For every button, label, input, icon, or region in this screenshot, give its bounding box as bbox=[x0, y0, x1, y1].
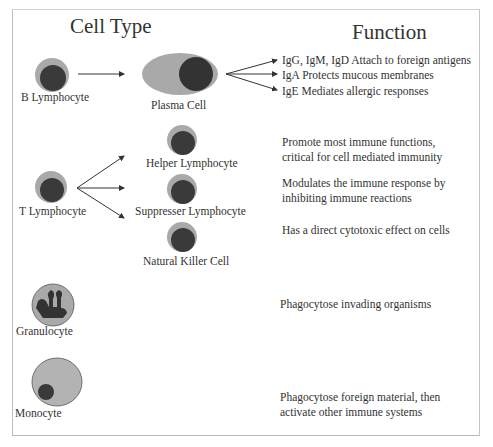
granulocyte-icon bbox=[32, 284, 74, 326]
function-heading: Function bbox=[352, 20, 427, 45]
suppresser-function-line-1: Modulates the immune response by bbox=[282, 176, 446, 191]
granulocyte-label: Granulocyte bbox=[16, 325, 73, 337]
helper-function-line-1: Promote most immune functions, bbox=[282, 135, 442, 150]
b-lymphocyte-icon bbox=[35, 58, 69, 92]
natural-killer-cell-label: Natural Killer Cell bbox=[143, 255, 229, 267]
t-lymphocyte-label: T Lymphocyte bbox=[19, 205, 86, 217]
helper-lymphocyte-label: Helper Lymphocyte bbox=[146, 157, 238, 169]
natural-killer-cell-icon bbox=[167, 222, 197, 252]
cell-type-heading: Cell Type bbox=[70, 14, 152, 39]
t-lymphocyte-icon bbox=[35, 171, 67, 203]
b-lymphocyte-label: B Lymphocyte bbox=[21, 91, 89, 103]
granulocyte-function: Phagocytose invading organisms bbox=[280, 297, 431, 312]
monocyte-function-line-2: activate other immune systems bbox=[280, 405, 440, 420]
suppresser-lymphocyte-label: Suppresser Lymphocyte bbox=[135, 205, 246, 217]
suppresser-function: Modulates the immune response by inhibit… bbox=[282, 176, 446, 206]
monocyte-label: Monocyte bbox=[15, 407, 62, 419]
iga-function: IgA Protects mucous membranes bbox=[282, 68, 434, 83]
monocyte-icon bbox=[32, 358, 82, 406]
helper-function-line-2: critical for cell mediated immunity bbox=[282, 150, 442, 165]
monocyte-function: Phagocytose foreign material, then activ… bbox=[280, 390, 440, 420]
igg-function: IgG, IgM, IgD Attach to foreign antigens bbox=[282, 53, 471, 68]
ige-function: IgE Mediates allergic responses bbox=[282, 84, 428, 99]
plasma-cell-label: Plasma Cell bbox=[151, 99, 206, 111]
nk-function: Has a direct cytotoxic effect on cells bbox=[282, 223, 450, 238]
plasma-function-arrows bbox=[226, 60, 277, 90]
suppresser-function-line-2: inhibiting immune reactions bbox=[282, 191, 446, 206]
plasma-cell-icon bbox=[142, 53, 218, 95]
suppresser-lymphocyte-icon bbox=[167, 174, 197, 204]
helper-function: Promote most immune functions, critical … bbox=[282, 135, 442, 165]
monocyte-function-line-1: Phagocytose foreign material, then bbox=[280, 390, 440, 405]
helper-lymphocyte-icon bbox=[167, 125, 197, 155]
